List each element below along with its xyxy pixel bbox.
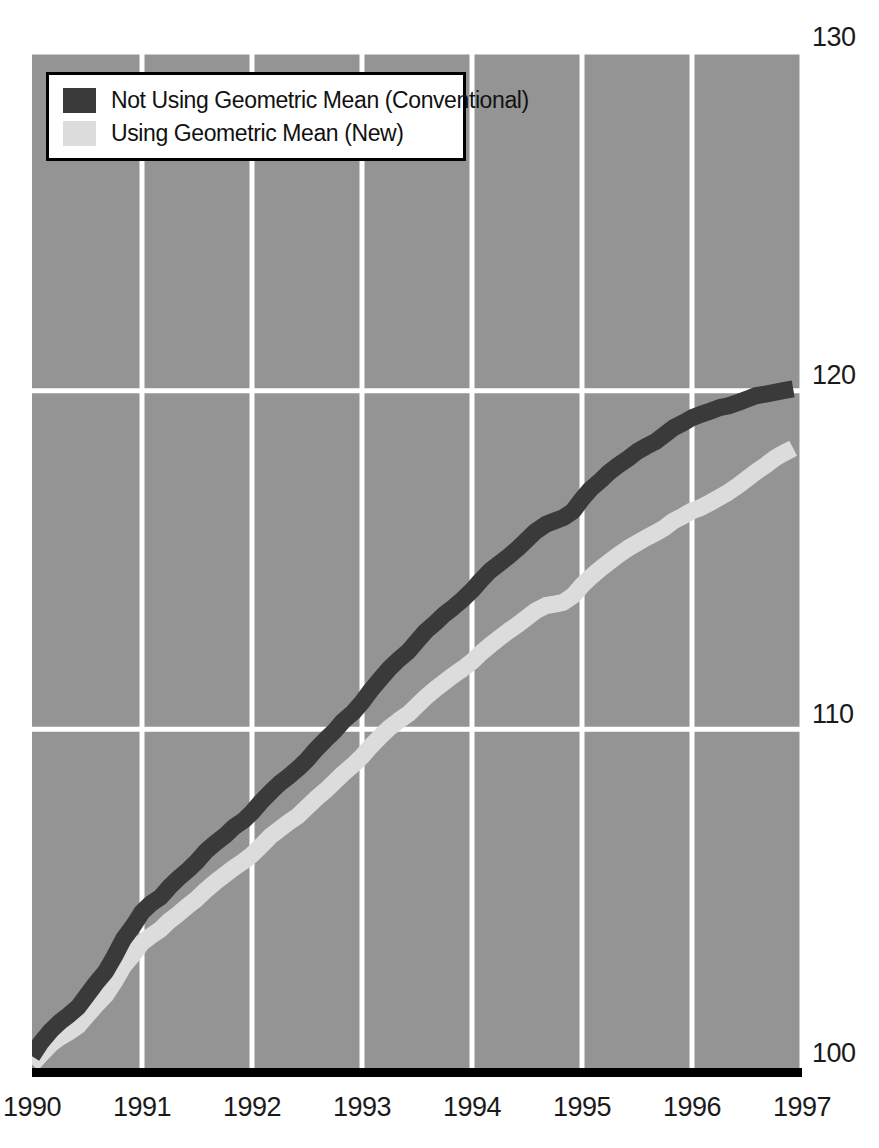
x-axis-tick-label-1991: 1991	[113, 1092, 171, 1122]
series-lines	[32, 389, 793, 1065]
series-line-geometric	[32, 448, 793, 1064]
legend-entry-geometric: Using Geometric Mean (New)	[63, 117, 451, 150]
x-axis-tick-label-1996: 1996	[663, 1092, 721, 1122]
legend-label-geometric: Using Geometric Mean (New)	[111, 121, 404, 146]
legend-swatch-conventional-icon	[63, 88, 96, 113]
legend-entry-conventional: Not Using Geometric Mean (Conventional)	[63, 84, 451, 117]
x-axis-baseline	[32, 1068, 802, 1077]
chart-figure: 130 120 110 100 199019911992199319941995…	[0, 0, 879, 1148]
y-axis-tick-label-100: 100	[812, 1040, 856, 1067]
x-axis-tick-label-1995: 1995	[553, 1092, 611, 1122]
series-line-conventional	[32, 389, 793, 1056]
vertical-gridlines	[142, 52, 802, 1068]
y-axis-tick-label-110: 110	[812, 701, 854, 728]
y-axis-tick-label-120: 120	[812, 362, 856, 389]
legend-swatch-geometric-icon	[63, 121, 96, 146]
x-axis-tick-label-1994: 1994	[443, 1092, 501, 1122]
y-axis-tick-label-130: 130	[812, 24, 856, 51]
x-axis-tick-label-1990: 1990	[3, 1092, 61, 1122]
chart-legend: Not Using Geometric Mean (Conventional) …	[46, 72, 466, 161]
x-axis-tick-label-1993: 1993	[333, 1092, 391, 1122]
cropped-header-strip	[0, 0, 879, 6]
legend-label-conventional: Not Using Geometric Mean (Conventional)	[111, 88, 529, 113]
x-axis-tick-label-1992: 1992	[223, 1092, 281, 1122]
plot-svg	[32, 52, 802, 1068]
plot-area	[32, 52, 802, 1068]
x-axis-tick-labels: 19901991199219931994199519961997	[32, 1092, 802, 1128]
x-axis-tick-label-1997: 1997	[773, 1092, 831, 1122]
